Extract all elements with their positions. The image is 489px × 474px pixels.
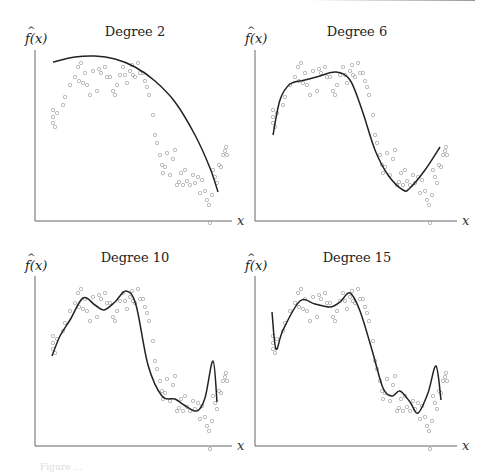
plots-canvas [0,0,489,474]
fit-curves [52,56,441,413]
data-points [52,62,449,451]
